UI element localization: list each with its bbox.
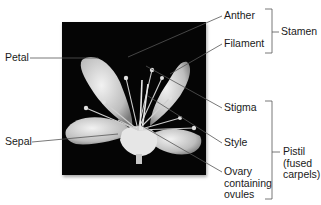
label-petal: Petal <box>5 52 29 63</box>
label-style: Style <box>224 137 247 148</box>
leader-lines <box>0 0 321 205</box>
anther-leader <box>128 16 222 57</box>
sepal-leader <box>32 134 118 142</box>
label-ovary-line1: Ovary <box>224 166 272 178</box>
label-pistil-line1: Pistil <box>283 146 320 158</box>
label-ovary-line3: ovules <box>224 189 272 201</box>
label-pistil-line3: carpels) <box>283 169 320 181</box>
label-sepal: Sepal <box>5 136 32 147</box>
label-pistil: Pistil (fused carpels) <box>283 146 320 181</box>
label-ovary: Ovary containing ovules <box>224 166 272 201</box>
ovary-leader <box>142 126 222 172</box>
label-stamen: Stamen <box>281 26 317 37</box>
filament-leader <box>170 44 222 74</box>
label-anther: Anther <box>224 10 255 21</box>
label-filament: Filament <box>224 38 264 49</box>
stamen-bracket <box>265 9 272 53</box>
label-stigma: Stigma <box>224 102 257 113</box>
